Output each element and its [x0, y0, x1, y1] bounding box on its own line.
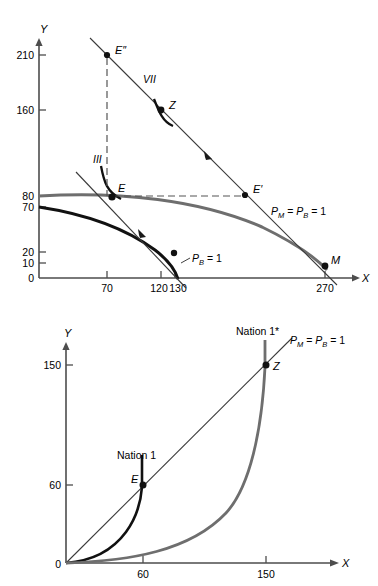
pb-symbol: P	[296, 205, 303, 217]
pb-equals-one: = 1	[308, 205, 326, 217]
top-x-axis-arrow-icon	[352, 274, 360, 281]
point-e-top	[108, 193, 115, 200]
offer-curve-nation-1-star	[66, 340, 265, 563]
pb-equals-one-bottom: = 1	[327, 334, 345, 346]
bottom-y-tick-label-150: 150	[43, 359, 61, 371]
svg-text:PM = PB = 1: PM = PB = 1	[290, 334, 345, 349]
label-nation-1: Nation 1	[117, 449, 156, 461]
bottom-y-tick-label-0: 0	[55, 558, 61, 570]
figure-container: Y X 210 160 80 70 20 10 0 70 120 130 270	[0, 0, 378, 586]
label-z-bottom: Z	[272, 360, 281, 372]
label-e-prime: E′	[253, 183, 263, 195]
label-e-double-prime: E″	[115, 44, 127, 56]
top-y-axis-label: Y	[40, 23, 48, 35]
top-x-tick-label-70: 70	[101, 282, 113, 294]
top-y-tick-label-10: 10	[22, 257, 34, 269]
bottom-y-ticks	[66, 365, 73, 485]
label-trade-price-line-top: PM = PB = 1	[271, 205, 326, 220]
trade-price-line-arrow-icon	[204, 151, 212, 160]
bottom-x-tick-label-150: 150	[257, 568, 275, 580]
label-indifference-vii: VII	[143, 73, 156, 85]
top-x-tick-label-270: 270	[316, 282, 334, 294]
top-x-axis-label: X	[361, 272, 370, 284]
bottom-y-axis-label: Y	[64, 327, 72, 339]
bottom-offer-curve-panel: Y X 150 60 0 60 150 Z E Nation 1* Nation…	[43, 325, 350, 580]
svg-text:PM = PB = 1: PM = PB = 1	[271, 205, 326, 220]
pb-symbol-bottom: P	[315, 334, 322, 346]
ppf-curve-base	[39, 207, 178, 279]
top-x-tick-label-120: 120	[150, 282, 168, 294]
pm-symbol: P	[271, 205, 278, 217]
pm-equals-bottom: =	[303, 334, 315, 346]
top-y-ticks	[39, 55, 46, 263]
bottom-y-axis-arrow-icon	[62, 342, 69, 350]
bottom-y-tick-label-60: 60	[49, 479, 61, 491]
trade-price-line	[90, 38, 337, 285]
point-m	[322, 263, 329, 270]
point-e-bottom	[140, 482, 147, 489]
offer-curve-nation-1	[66, 455, 142, 563]
label-nation-1-star: Nation 1*	[236, 325, 279, 337]
bottom-x-tick-label-60: 60	[137, 568, 149, 580]
bottom-x-axis-label: X	[341, 557, 350, 569]
pm-equals: =	[284, 205, 296, 217]
label-m: M	[331, 254, 341, 266]
bottom-x-axis-arrow-icon	[330, 559, 339, 566]
bottom-price-line	[66, 338, 292, 563]
point-z-bottom	[263, 362, 270, 369]
autarky-label-leader-line	[181, 258, 190, 263]
economics-figure: Y X 210 160 80 70 20 10 0 70 120 130 270	[0, 0, 378, 586]
pb-equals-one-autarky: = 1	[204, 252, 222, 264]
point-e-double-prime	[104, 52, 110, 58]
svg-text:PB = 1: PB = 1	[192, 252, 222, 267]
top-x-ticks	[107, 271, 325, 278]
label-z-top: Z	[168, 99, 177, 111]
top-y-tick-label-160: 160	[16, 104, 34, 116]
top-x-tick-label-130: 130	[169, 282, 187, 294]
point-z-top	[158, 107, 165, 114]
top-y-tick-label-0: 0	[28, 272, 34, 284]
label-e-top: E	[118, 182, 126, 194]
pb-symbol-autarky: P	[192, 252, 199, 264]
top-y-tick-label-70: 70	[22, 201, 34, 213]
label-e-bottom: E	[131, 473, 139, 485]
label-autarky-price-line: PB = 1	[192, 252, 222, 267]
top-y-axis-arrow-icon	[35, 38, 42, 46]
point-e-prime	[242, 192, 248, 198]
autarky-price-line	[76, 172, 186, 288]
point-autarky-production	[171, 250, 177, 256]
top-y-tick-label-210: 210	[16, 49, 34, 61]
top-ppf-panel: Y X 210 160 80 70 20 10 0 70 120 130 270	[16, 23, 370, 294]
pm-symbol-bottom: P	[290, 334, 297, 346]
autarky-price-line-arrow-icon	[138, 229, 146, 238]
label-indifference-iii: III	[93, 153, 102, 165]
bottom-x-ticks	[143, 556, 266, 563]
label-price-line-bottom: PM = PB = 1	[290, 334, 345, 349]
